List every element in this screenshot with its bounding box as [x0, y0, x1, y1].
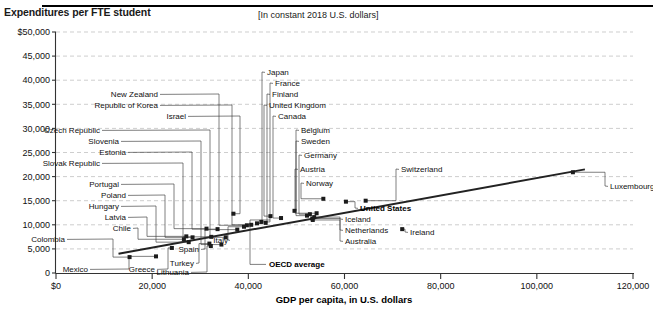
- data-point[interactable]: [235, 228, 239, 232]
- y-tick-label: 35,000: [22, 100, 50, 110]
- point-label-slovak-republic: Slovak Republic: [43, 159, 100, 168]
- point-label-switzerland: Switzerland: [401, 165, 442, 174]
- point-labels: JapanFranceFinlandUnited KingdomCanadaNe…: [31, 68, 653, 277]
- point-label-portugal: Portugal: [89, 180, 119, 189]
- data-point[interactable]: [170, 246, 174, 250]
- data-point[interactable]: [187, 240, 191, 244]
- data-point[interactable]: [128, 255, 132, 259]
- data-point[interactable]: [259, 220, 263, 224]
- y-tick-label: 20,000: [22, 172, 50, 182]
- point-label-hungary: Hungary: [89, 202, 119, 211]
- point-label-italy: Italy: [213, 236, 228, 245]
- data-point[interactable]: [364, 199, 368, 203]
- point-label-sweden: Sweden: [301, 137, 330, 146]
- leader-line: [314, 217, 343, 230]
- data-point[interactable]: [279, 216, 283, 220]
- point-label-australia: Australia: [345, 237, 377, 246]
- data-point[interactable]: [344, 200, 348, 204]
- y-tick-label: 10,000: [22, 220, 50, 230]
- point-label-israel: Israel: [166, 112, 186, 121]
- x-tick-label: 120,000: [617, 281, 650, 291]
- x-tick-label: 40,000: [235, 281, 263, 291]
- point-label-iceland: Iceland: [345, 215, 371, 224]
- point-label-slovenia: Slovenia: [88, 137, 119, 146]
- point-label-oecd-average: OECD average: [269, 260, 325, 269]
- data-point[interactable]: [184, 234, 188, 238]
- scatter-plot: 05,00010,00015,00020,00025,00030,00035,0…: [0, 0, 653, 313]
- data-point[interactable]: [292, 209, 296, 213]
- y-tick-label: 15,000: [22, 196, 50, 206]
- x-tick-label: 20,000: [138, 281, 166, 291]
- point-label-estonia: Estonia: [99, 148, 126, 157]
- point-label-latvia: Latvia: [105, 213, 127, 222]
- y-tick-label: 40,000: [22, 75, 50, 85]
- point-label-ireland: Ireland: [410, 228, 434, 237]
- point-label-germany: Germany: [304, 151, 337, 160]
- point-label-austria: Austria: [300, 165, 325, 174]
- leader-line: [128, 217, 186, 236]
- x-tick-label: $0: [51, 281, 61, 291]
- leader-line: [295, 169, 317, 213]
- x-tick-label: 100,000: [521, 281, 554, 291]
- y-tick-label: 25,000: [22, 148, 50, 158]
- data-point[interactable]: [321, 197, 325, 201]
- point-label-new-zealand: New Zealand: [111, 90, 158, 99]
- data-point[interactable]: [264, 221, 268, 225]
- point-label-czech-republic: Czech Republic: [44, 126, 100, 135]
- point-label-mexico: Mexico: [63, 265, 89, 274]
- leader-line: [121, 206, 189, 242]
- x-axis-title: GDP per capita, in U.S. dollars: [276, 294, 413, 305]
- data-point[interactable]: [249, 223, 253, 227]
- data-point[interactable]: [571, 170, 575, 174]
- leader-line: [273, 116, 281, 218]
- y-tick-label: 45,000: [22, 51, 50, 61]
- point-label-belgium: Belgium: [301, 126, 330, 135]
- point-label-republic-of-korea: Republic of Korea: [94, 101, 158, 110]
- leader-line: [312, 219, 343, 220]
- data-point[interactable]: [315, 211, 319, 215]
- point-label-canada: Canada: [278, 112, 307, 121]
- point-label-poland: Poland: [101, 191, 126, 200]
- x-tick-label: 60,000: [331, 281, 359, 291]
- data-point[interactable]: [245, 223, 249, 227]
- leader-line: [573, 172, 608, 186]
- data-point[interactable]: [311, 218, 315, 222]
- point-label-united-states: United States: [360, 204, 412, 213]
- data-point[interactable]: [209, 244, 213, 248]
- data-point[interactable]: [154, 254, 158, 258]
- data-point[interactable]: [231, 212, 235, 216]
- point-label-lithuania: Lithuania: [157, 268, 190, 277]
- leader-line: [366, 169, 399, 201]
- leader-line: [313, 220, 343, 241]
- data-point[interactable]: [191, 235, 195, 239]
- point-label-luxembourg: Luxembourg: [610, 182, 653, 191]
- y-tick-label: 0: [45, 268, 50, 278]
- data-point[interactable]: [255, 221, 259, 225]
- point-label-colombia: Colombia: [31, 235, 65, 244]
- data-point[interactable]: [268, 214, 272, 218]
- point-label-turkey: Turkey: [170, 259, 194, 268]
- data-point[interactable]: [205, 227, 209, 231]
- point-label-greece: Greece: [129, 265, 156, 274]
- point-label-spain: Spain: [179, 245, 199, 254]
- point-label-chile: Chile: [113, 224, 132, 233]
- chart-container: Expenditures per FTE student [In constan…: [0, 0, 653, 313]
- point-label-france: France: [275, 79, 300, 88]
- y-tick-label: 5,000: [27, 244, 50, 254]
- leader-line: [266, 94, 270, 223]
- point-label-united-kingdom: United Kingdom: [269, 101, 326, 110]
- x-tick-labels: $020,00040,00060,00080,000100,000120,000: [51, 281, 649, 291]
- point-label-norway: Norway: [306, 179, 333, 188]
- point-label-finland: Finland: [272, 90, 298, 99]
- leader-line: [128, 152, 218, 229]
- data-point[interactable]: [308, 212, 312, 216]
- point-label-netherlands: Netherlands: [345, 226, 388, 235]
- data-point[interactable]: [216, 227, 220, 231]
- x-tick-label: 80,000: [427, 281, 455, 291]
- y-tick-label: $50,000: [17, 27, 50, 37]
- data-point[interactable]: [400, 227, 404, 231]
- point-label-japan: Japan: [267, 68, 289, 77]
